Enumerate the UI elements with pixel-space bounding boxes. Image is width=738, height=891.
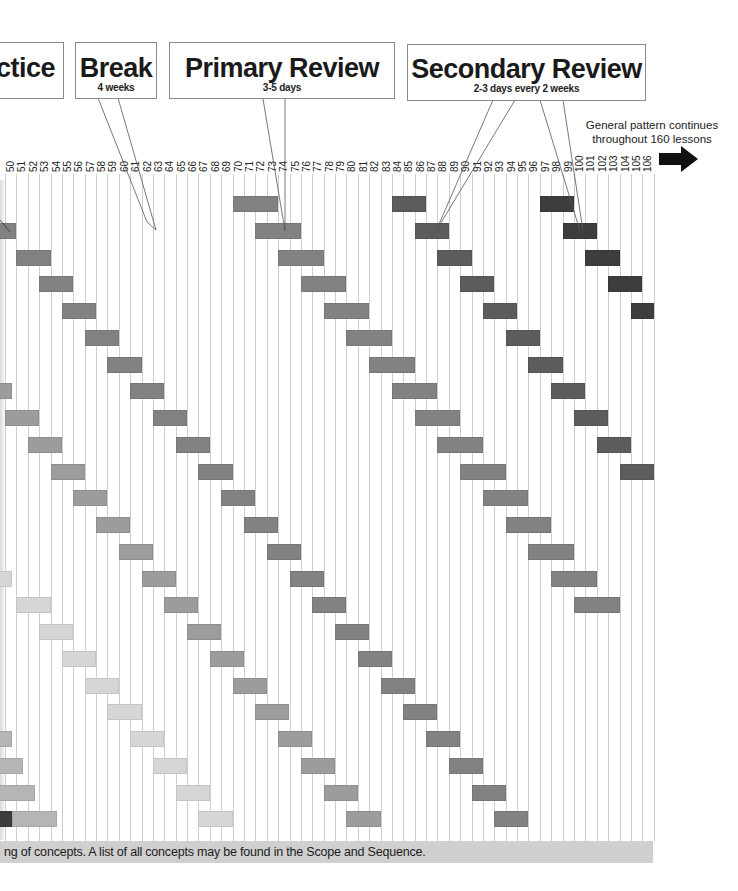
grid-line (540, 174, 541, 841)
lesson-bar (233, 196, 279, 212)
lesson-number-91: 91 (472, 146, 483, 172)
lesson-number-83: 83 (381, 146, 392, 172)
lesson-bar (551, 571, 597, 587)
lesson-number-82: 82 (369, 146, 380, 172)
lesson-bar (51, 464, 85, 480)
grid-line (551, 174, 552, 841)
grid-line (403, 174, 404, 841)
secondary-review-title: Secondary Review (408, 56, 645, 83)
lesson-bar (198, 464, 232, 480)
lesson-bar (0, 223, 16, 239)
lesson-number-77: 77 (312, 146, 323, 172)
grid-line (39, 174, 40, 841)
lesson-bar (472, 785, 506, 801)
lesson-number-76: 76 (301, 146, 312, 172)
lesson-bar (301, 758, 335, 774)
footer-note-text: ng of concepts. A list of all concepts m… (4, 845, 426, 859)
lesson-bar (278, 731, 312, 747)
lesson-bar (392, 383, 438, 399)
lesson-bar (85, 678, 119, 694)
grid-line (654, 174, 655, 841)
lesson-number-63: 63 (153, 146, 164, 172)
lesson-number-87: 87 (426, 146, 437, 172)
lesson-bar (483, 490, 529, 506)
lesson-bar (620, 464, 654, 480)
lesson-bar (198, 811, 232, 827)
lesson-bar (107, 357, 141, 373)
lesson-bar (210, 651, 244, 667)
lesson-number-60: 60 (119, 146, 130, 172)
lesson-bar (130, 383, 164, 399)
lesson-number-94: 94 (506, 146, 517, 172)
grid-line (608, 174, 609, 841)
lesson-number-102: 102 (597, 146, 608, 172)
lesson-bar (119, 544, 153, 560)
lesson-number-72: 72 (255, 146, 266, 172)
lesson-bar (437, 250, 471, 266)
lesson-number-93: 93 (494, 146, 505, 172)
grid-line (392, 174, 393, 841)
grid-line (107, 174, 108, 841)
grid-line (51, 174, 52, 841)
grid-line (324, 174, 325, 841)
lesson-bar (107, 704, 141, 720)
lesson-number-64: 64 (164, 146, 175, 172)
lesson-bar (255, 223, 301, 239)
lesson-bar (460, 464, 506, 480)
grid-line (597, 174, 598, 841)
lesson-bar (233, 678, 267, 694)
lesson-bar (381, 678, 415, 694)
lesson-number-104: 104 (620, 146, 631, 172)
lesson-number-106: 106 (642, 146, 653, 172)
lesson-bar (0, 811, 12, 827)
lesson-number-61: 61 (130, 146, 141, 172)
lesson-bar (164, 597, 198, 613)
break-title: Break (76, 55, 156, 82)
lesson-bar (506, 517, 552, 533)
lesson-bar (255, 704, 289, 720)
lesson-number-71: 71 (244, 146, 255, 172)
primary-review-subtitle: 3-5 days (170, 82, 394, 93)
lesson-bar (437, 437, 483, 453)
footer-note-band: ng of concepts. A list of all concepts m… (0, 841, 653, 863)
lesson-bar (39, 624, 73, 640)
lesson-bar (449, 758, 483, 774)
lesson-number-98: 98 (551, 146, 562, 172)
lesson-number-99: 99 (563, 146, 574, 172)
grid-line (472, 174, 473, 841)
lesson-bar (324, 785, 358, 801)
grid-line (528, 174, 529, 841)
lesson-bar (244, 517, 278, 533)
lesson-number-57: 57 (85, 146, 96, 172)
lesson-bar (415, 410, 461, 426)
lesson-bar (494, 811, 528, 827)
lesson-number-81: 81 (358, 146, 369, 172)
grid-line (187, 174, 188, 841)
lesson-bar (574, 597, 620, 613)
lesson-bar (358, 651, 392, 667)
lesson-number-51: 51 (16, 146, 27, 172)
lesson-number-105: 105 (631, 146, 642, 172)
lesson-bar (551, 383, 585, 399)
lesson-number-50: 50 (5, 146, 16, 172)
lesson-bar (39, 276, 73, 292)
lesson-bar (0, 785, 35, 801)
primary-review-callout: Primary Review 3-5 days (169, 42, 395, 99)
primary-review-title: Primary Review (170, 55, 394, 82)
lesson-number-68: 68 (210, 146, 221, 172)
lesson-bar (130, 731, 164, 747)
grid-line (119, 174, 120, 841)
lesson-number-70: 70 (233, 146, 244, 172)
lesson-bar (0, 731, 12, 747)
lesson-bar (312, 597, 346, 613)
lesson-bar (85, 330, 119, 346)
lesson-number-101: 101 (585, 146, 596, 172)
lesson-bar (0, 383, 12, 399)
lesson-bar (176, 437, 210, 453)
lesson-bar (153, 758, 187, 774)
lesson-bar (608, 276, 642, 292)
secondary-review-callout: Secondary Review 2-3 days every 2 weeks (407, 44, 646, 101)
lesson-number-100: 100 (574, 146, 585, 172)
lesson-number-54: 54 (51, 146, 62, 172)
right-arrow-icon (659, 146, 699, 172)
